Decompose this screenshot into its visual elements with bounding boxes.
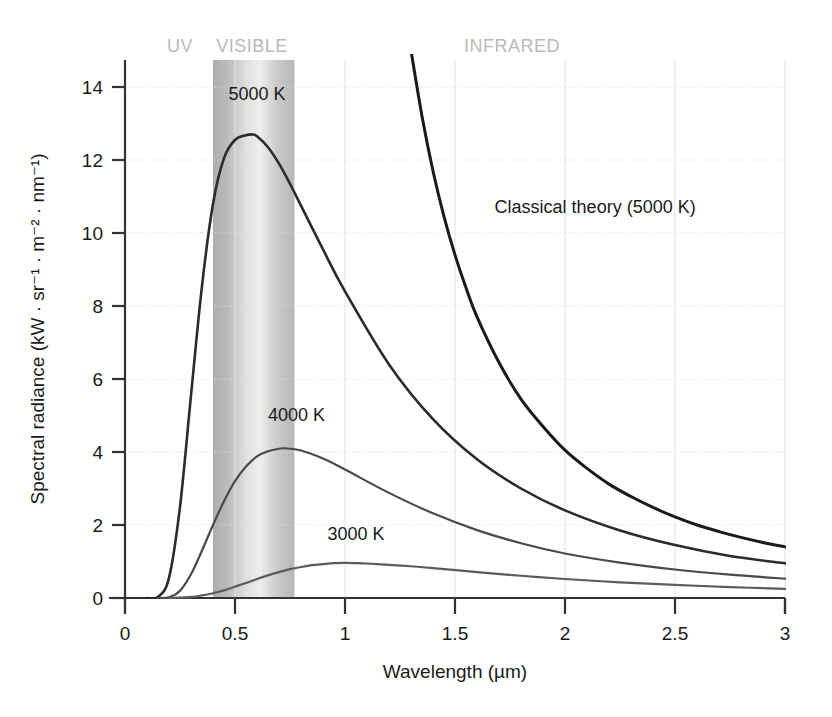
y-axis-title: Spectral radiance (kW · sr⁻¹ · m⁻² · nm⁻… xyxy=(27,154,48,505)
x-tick-label: 2.5 xyxy=(662,623,688,644)
annotation-classical-theory-5000-k: Classical theory (5000 K) xyxy=(495,197,696,217)
y-tick-label: 0 xyxy=(92,588,103,609)
y-tick-label: 10 xyxy=(82,223,103,244)
blackbody-radiation-chart: 02468101214 00.511.522.53 UVVISIBLEINFRA… xyxy=(0,0,832,717)
y-tick-label: 4 xyxy=(92,442,103,463)
annotation-5000-k: 5000 K xyxy=(228,84,285,104)
y-tick-label: 2 xyxy=(92,515,103,536)
x-tick-label: 2 xyxy=(560,623,571,644)
y-tick-label: 8 xyxy=(92,296,103,317)
y-tick-label: 12 xyxy=(82,150,103,171)
y-tick-label: 14 xyxy=(82,77,104,98)
spectrum-band-labels: UVVISIBLEINFRARED xyxy=(167,36,560,56)
x-tick-label: 1.5 xyxy=(442,623,468,644)
x-axis-tick-labels: 00.511.522.53 xyxy=(120,623,791,644)
x-tick-label: 3 xyxy=(780,623,791,644)
x-axis-title: Wavelength (µm) xyxy=(383,661,527,682)
band-label-uv: UV xyxy=(167,36,193,56)
vertical-gridlines xyxy=(235,60,785,598)
x-axis-ticks xyxy=(125,598,785,614)
band-label-infrared: INFRARED xyxy=(464,36,560,56)
curve-annotations: 5000 K4000 K3000 KClassical theory (5000… xyxy=(228,84,695,544)
annotation-4000-k: 4000 K xyxy=(268,405,325,425)
annotation-3000-k: 3000 K xyxy=(327,524,384,544)
curve-classical-theory-5000-k xyxy=(411,51,785,547)
y-axis-ticks xyxy=(112,87,125,598)
x-tick-label: 1 xyxy=(340,623,351,644)
x-tick-label: 0.5 xyxy=(222,623,248,644)
y-axis-tick-labels: 02468101214 xyxy=(82,77,104,609)
chart-canvas: 02468101214 00.511.522.53 UVVISIBLEINFRA… xyxy=(0,0,832,717)
x-tick-label: 0 xyxy=(120,623,131,644)
y-tick-label: 6 xyxy=(92,369,103,390)
visible-band-shade xyxy=(213,60,294,598)
band-label-visible: VISIBLE xyxy=(216,36,288,56)
